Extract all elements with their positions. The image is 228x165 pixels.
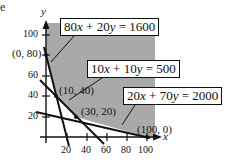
equation-box-3: 20x + 70y = 2000 [123,87,222,105]
point-label-100-0: (100, 0) [137,123,172,135]
x-tick-80: 80 [121,144,131,155]
eq1-coef-y: 20 [97,19,110,34]
cropped-text-glyph: e [0,0,5,15]
point-label-0-80: (0, 80) [12,47,41,59]
vertex-100-0 [145,135,149,139]
eq1-rhs: 1600 [129,19,155,34]
y-tick-60: 60 [28,69,38,80]
eq2-coef-x: 10 [91,61,104,76]
x-tick-100: 100 [138,144,153,155]
equation-box-1: 80x + 20y = 1600 [60,18,159,36]
y-tick-100: 100 [23,28,38,39]
vertex-10-40 [54,94,58,98]
vertex-30-20 [74,115,78,119]
x-tick-60: 60 [101,144,111,155]
eq3-coef-y: 70 [160,88,173,103]
equation-box-2: 10x + 10y = 500 [87,60,180,78]
eq3-rhs: 2000 [192,88,218,103]
y-tick-20: 20 [28,110,38,121]
x-tick-40: 40 [81,144,91,155]
point-label-30-20: (30, 20) [81,105,116,117]
y-axis-label: y [41,5,46,17]
y-tick-40: 40 [28,89,38,100]
point-label-10-40: (10, 40) [59,84,94,96]
eq2-coef-y: 10 [124,61,137,76]
eq2-rhs: 500 [156,61,176,76]
eq3-coef-x: 20 [127,88,140,103]
x-tick-20: 20 [61,144,71,155]
vertex-0-80 [44,53,48,57]
eq1-coef-x: 80 [64,19,77,34]
